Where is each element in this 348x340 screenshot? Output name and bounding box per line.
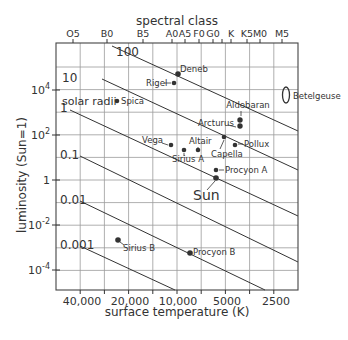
radius-line-label: 0.1 [60, 148, 79, 162]
spectral-tick-label: K [228, 28, 235, 39]
solar-radii-label: solar radii [62, 95, 117, 108]
x-tick-label: 40,000 [63, 295, 102, 308]
star-procyon-b: Procyon B [187, 247, 235, 257]
spectral-tick-label: G0 [206, 28, 219, 39]
radius-line-label: 100 [116, 45, 139, 59]
star-label: Deneb [180, 64, 208, 74]
star-sirius-b: Sirius B [115, 237, 155, 253]
y-tick-label: 10-4 [28, 262, 50, 277]
x-axis-label: surface temperature (K) [105, 305, 250, 319]
star-label: Pollux [244, 139, 269, 149]
star-label: Procyon B [193, 247, 235, 257]
y-tick-label: 1 [43, 174, 50, 187]
spectral-tick-label: F0 [193, 28, 205, 39]
star-marker [233, 143, 238, 148]
star-marker [115, 237, 121, 243]
star-altair: Altair [189, 136, 212, 152]
star-marker [213, 175, 219, 181]
spectral-tick-label: K5 [241, 28, 253, 39]
star-label: Sun [193, 187, 220, 203]
star-label: Vega [142, 135, 163, 145]
star-label: Aldebaran [226, 100, 270, 110]
y-tick-label: 102 [31, 127, 50, 142]
star-label: Sirius B [123, 243, 155, 253]
radius-line [80, 201, 265, 290]
spectral-tick-label: O5 [66, 28, 80, 39]
star-marker [237, 123, 242, 128]
star-procyon-a: Procyon A [214, 165, 268, 175]
y-tick-label: 104 [31, 82, 50, 97]
star-rigel: Rigel [146, 78, 176, 88]
spectral-class-title: spectral class [136, 14, 218, 28]
radius-line-label: 0.001 [60, 238, 94, 252]
radius-line-label: 10 [62, 71, 77, 85]
spectral-tick-label: M5 [275, 28, 289, 39]
star-spica: Spica [115, 96, 144, 106]
star-marker [172, 81, 177, 86]
star-sun: Sun [193, 175, 220, 203]
star-deneb: Deneb [175, 64, 208, 77]
star-label: Betelgeuse [293, 91, 341, 101]
y-axis: 104102110-210-4 [28, 82, 60, 277]
star-label: Altair [189, 136, 212, 146]
radius-line-label: 0.01 [60, 193, 87, 207]
star-marker [115, 99, 120, 104]
spectral-tick-label: A5 [179, 28, 192, 39]
star-marker [222, 135, 227, 140]
star-marker [169, 143, 174, 148]
star-label: Arcturus [198, 118, 234, 128]
spectral-tick-label: B5 [137, 28, 150, 39]
x-tick-label: 2500 [262, 295, 290, 308]
spectral-tick-label: M0 [253, 28, 267, 39]
hr-diagram: 1001010.10.010.001 O5B0B5A0A5F0G0KK5M0M5… [0, 0, 348, 340]
spectral-class-axis: O5B0B5A0A5F0G0KK5M0M5 [66, 28, 289, 43]
leader-line [220, 140, 224, 149]
spectral-tick-label: B0 [101, 28, 114, 39]
star-marker [196, 148, 201, 153]
star-marker [237, 117, 242, 122]
star-label: Spica [121, 96, 144, 106]
star-marker [182, 148, 187, 153]
y-axis-label: luminosity (Sun=1) [15, 117, 29, 233]
spectral-tick-label: A0 [166, 28, 179, 39]
star-capella: Capella [211, 135, 243, 159]
star-marker [214, 168, 219, 173]
star-label: Capella [211, 149, 243, 159]
y-tick-label: 10-2 [28, 217, 50, 232]
star-arcturus: Arcturus [198, 118, 243, 129]
star-label: Procyon A [225, 165, 267, 175]
star-label: Rigel [146, 78, 167, 88]
star-label: Sirius A [172, 154, 204, 164]
star-pollux: Pollux [233, 139, 269, 149]
star-marker [187, 250, 193, 256]
